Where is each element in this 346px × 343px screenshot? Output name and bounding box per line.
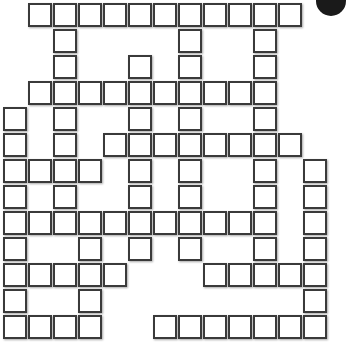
crossword-cell[interactable] xyxy=(153,3,177,27)
crossword-cell[interactable] xyxy=(78,211,102,235)
crossword-cell[interactable] xyxy=(228,81,252,105)
crossword-cell[interactable] xyxy=(28,81,52,105)
crossword-cell[interactable] xyxy=(203,315,227,339)
crossword-cell[interactable] xyxy=(153,315,177,339)
crossword-cell[interactable] xyxy=(178,107,202,131)
crossword-cell[interactable] xyxy=(3,133,27,157)
crossword-cell[interactable] xyxy=(128,211,152,235)
crossword-cell[interactable] xyxy=(53,133,77,157)
crossword-cell[interactable] xyxy=(78,159,102,183)
crossword-cell[interactable] xyxy=(103,81,127,105)
crossword-cell[interactable] xyxy=(78,3,102,27)
crossword-cell[interactable] xyxy=(128,107,152,131)
crossword-cell[interactable] xyxy=(278,3,302,27)
crossword-cell[interactable] xyxy=(103,211,127,235)
crossword-cell[interactable] xyxy=(178,81,202,105)
crossword-cell[interactable] xyxy=(128,3,152,27)
crossword-cell[interactable] xyxy=(53,211,77,235)
crossword-cell[interactable] xyxy=(203,133,227,157)
crossword-cell[interactable] xyxy=(228,3,252,27)
crossword-cell[interactable] xyxy=(278,263,302,287)
crossword-cell[interactable] xyxy=(78,81,102,105)
crossword-cell[interactable] xyxy=(53,107,77,131)
crossword-cell[interactable] xyxy=(253,237,277,261)
crossword-cell[interactable] xyxy=(128,159,152,183)
crossword-cell[interactable] xyxy=(78,289,102,313)
crossword-cell[interactable] xyxy=(253,133,277,157)
crossword-cell[interactable] xyxy=(178,159,202,183)
crossword-cell[interactable] xyxy=(303,211,327,235)
crossword-cell[interactable] xyxy=(53,3,77,27)
crossword-cell[interactable] xyxy=(78,315,102,339)
crossword-cell[interactable] xyxy=(3,159,27,183)
crossword-cell[interactable] xyxy=(253,185,277,209)
crossword-cell[interactable] xyxy=(153,81,177,105)
crossword-cell[interactable] xyxy=(178,3,202,27)
crossword-cell[interactable] xyxy=(53,263,77,287)
crossword-cell[interactable] xyxy=(228,133,252,157)
crossword-cell[interactable] xyxy=(178,55,202,79)
crossword-cell[interactable] xyxy=(78,263,102,287)
crossword-cell[interactable] xyxy=(203,263,227,287)
crossword-cell[interactable] xyxy=(3,289,27,313)
crossword-cell[interactable] xyxy=(303,237,327,261)
crossword-cell[interactable] xyxy=(253,315,277,339)
crossword-cell[interactable] xyxy=(128,55,152,79)
crossword-cell[interactable] xyxy=(253,55,277,79)
crossword-cell[interactable] xyxy=(303,263,327,287)
crossword-cell[interactable] xyxy=(178,185,202,209)
crossword-cell[interactable] xyxy=(253,263,277,287)
crossword-cell[interactable] xyxy=(153,133,177,157)
crossword-cell[interactable] xyxy=(278,315,302,339)
crossword-cell[interactable] xyxy=(53,159,77,183)
crossword-cell[interactable] xyxy=(3,237,27,261)
crossword-cell[interactable] xyxy=(28,263,52,287)
crossword-cell[interactable] xyxy=(178,211,202,235)
crossword-cell[interactable] xyxy=(303,315,327,339)
crossword-cell[interactable] xyxy=(228,263,252,287)
crossword-cell[interactable] xyxy=(203,211,227,235)
crossword-cell[interactable] xyxy=(203,81,227,105)
crossword-cell[interactable] xyxy=(178,237,202,261)
crossword-cell[interactable] xyxy=(178,133,202,157)
crossword-cell[interactable] xyxy=(128,81,152,105)
crossword-cell[interactable] xyxy=(103,263,127,287)
crossword-cell[interactable] xyxy=(28,3,52,27)
crossword-cell[interactable] xyxy=(103,133,127,157)
crossword-cell[interactable] xyxy=(203,3,227,27)
crossword-cell[interactable] xyxy=(53,81,77,105)
crossword-cell[interactable] xyxy=(3,263,27,287)
crossword-cell[interactable] xyxy=(28,159,52,183)
crossword-cell[interactable] xyxy=(53,29,77,53)
crossword-cell[interactable] xyxy=(303,185,327,209)
crossword-cell[interactable] xyxy=(178,29,202,53)
crossword-cell[interactable] xyxy=(128,133,152,157)
crossword-cell[interactable] xyxy=(28,315,52,339)
crossword-cell[interactable] xyxy=(228,211,252,235)
crossword-cell[interactable] xyxy=(53,55,77,79)
crossword-cell[interactable] xyxy=(53,315,77,339)
crossword-cell[interactable] xyxy=(178,315,202,339)
crossword-cell[interactable] xyxy=(53,185,77,209)
crossword-cell[interactable] xyxy=(153,211,177,235)
crossword-cell[interactable] xyxy=(78,237,102,261)
crossword-cell[interactable] xyxy=(253,29,277,53)
crossword-cell[interactable] xyxy=(253,3,277,27)
crossword-cell[interactable] xyxy=(228,315,252,339)
crossword-cell[interactable] xyxy=(253,211,277,235)
crossword-cell[interactable] xyxy=(253,81,277,105)
crossword-cell[interactable] xyxy=(303,159,327,183)
crossword-cell[interactable] xyxy=(128,185,152,209)
crossword-cell[interactable] xyxy=(3,211,27,235)
crossword-cell[interactable] xyxy=(103,3,127,27)
crossword-cell[interactable] xyxy=(253,107,277,131)
crossword-cell[interactable] xyxy=(3,315,27,339)
crossword-cell[interactable] xyxy=(253,159,277,183)
crossword-cell[interactable] xyxy=(128,237,152,261)
crossword-cell[interactable] xyxy=(3,185,27,209)
crossword-cell[interactable] xyxy=(3,107,27,131)
crossword-cell[interactable] xyxy=(28,211,52,235)
crossword-cell[interactable] xyxy=(278,133,302,157)
crossword-cell[interactable] xyxy=(303,289,327,313)
